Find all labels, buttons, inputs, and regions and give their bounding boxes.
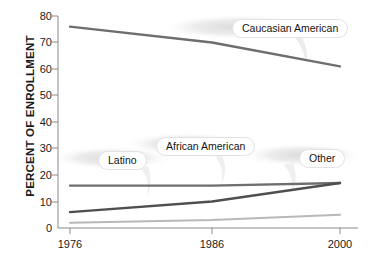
enrollment-line-chart: PERCENT OF ENROLLMENT 80 70 60 50 40 30 … [0, 0, 370, 260]
plot-area [0, 0, 370, 260]
series-line-other [70, 215, 340, 223]
series-label-other: Other [299, 149, 345, 168]
series-line-african-american [70, 183, 340, 186]
series-label-caucasian-american: Caucasian American [232, 19, 348, 38]
series-label-latino: Latino [98, 151, 147, 170]
series-label-african-american: African American [156, 137, 255, 156]
series-line-latino [70, 183, 340, 212]
